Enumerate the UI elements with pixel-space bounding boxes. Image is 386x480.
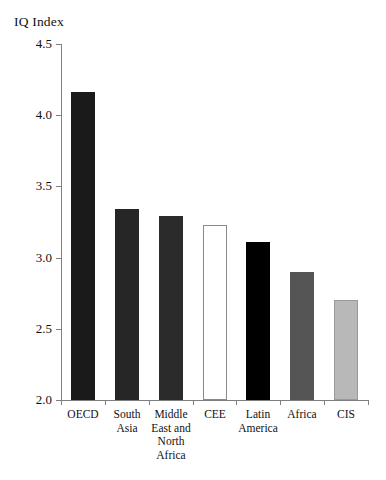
y-tick-mark (56, 329, 62, 330)
y-tick-label-text: 3.5 (18, 179, 52, 192)
bar-category-label: Africa (280, 408, 324, 422)
y-tick-mark (56, 44, 62, 45)
bar (159, 216, 183, 400)
x-tick-mark (61, 400, 62, 405)
bar-category-label: CEE (193, 408, 237, 422)
bar (115, 209, 139, 400)
bar (334, 300, 358, 400)
bar (246, 242, 270, 400)
bar-category-label: Middle East and North Africa (149, 408, 193, 462)
x-tick-mark (193, 400, 194, 405)
x-tick-mark (149, 400, 150, 405)
bar (203, 225, 227, 400)
bar-category-label: OECD (61, 408, 105, 422)
y-tick-label: 2.5 (12, 322, 52, 335)
y-tick-label: 3.5 (12, 179, 52, 192)
x-tick-mark (324, 400, 325, 405)
plot-area: 2.02.53.03.54.04.5 OECDSouth AsiaMiddle … (0, 0, 386, 480)
bar (290, 272, 314, 400)
y-tick-label-text: 4.5 (18, 37, 52, 50)
y-axis-line (61, 44, 62, 401)
y-tick-label: 4.0 (12, 108, 52, 121)
x-axis-line (61, 400, 368, 401)
y-tick-label-text: 4.0 (18, 108, 52, 121)
bar-category-label: South Asia (105, 408, 149, 435)
x-tick-mark (236, 400, 237, 405)
y-tick-label: 4.5 (12, 37, 52, 50)
y-tick-label: 3.0 (12, 251, 52, 264)
iq-index-bar-chart: IQ Index 2.02.53.03.54.04.5 OECDSouth As… (0, 0, 386, 480)
bar-category-label: Latin America (236, 408, 280, 435)
bar (71, 92, 95, 400)
y-tick-label-text: 2.5 (18, 322, 52, 335)
y-tick-label: 2.0 (12, 393, 52, 406)
x-tick-mark (105, 400, 106, 405)
y-tick-label-text: 2.0 (18, 393, 52, 406)
y-tick-mark (56, 115, 62, 116)
x-tick-mark (280, 400, 281, 405)
bar-category-label: CIS (324, 408, 368, 422)
y-tick-mark (56, 186, 62, 187)
x-tick-mark (368, 400, 369, 405)
y-tick-label-text: 3.0 (18, 251, 52, 264)
y-tick-mark (56, 258, 62, 259)
